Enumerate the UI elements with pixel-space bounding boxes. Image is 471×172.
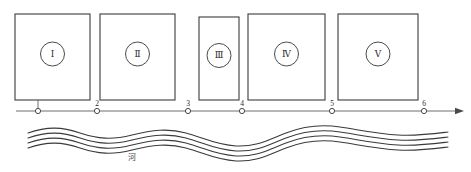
plot-2[interactable]: Ⅱ bbox=[100, 14, 175, 100]
tick-6-node[interactable] bbox=[421, 108, 426, 113]
tick-5-label: 5 bbox=[330, 99, 334, 108]
plot-5[interactable]: Ⅴ bbox=[338, 14, 418, 100]
diagram-canvas: ⅠⅡⅢⅣⅤ23456河 bbox=[0, 0, 471, 172]
plot-marker-label-1: Ⅰ bbox=[51, 49, 55, 59]
tick-4[interactable]: 4 bbox=[239, 99, 244, 114]
plot-marker-label-4: Ⅳ bbox=[282, 49, 292, 59]
tick-2-label: 2 bbox=[95, 99, 99, 108]
plot-marker-label-3: Ⅲ bbox=[215, 50, 224, 60]
river-group: 河 bbox=[28, 126, 448, 162]
river-label: 河 bbox=[128, 152, 136, 162]
tick-6[interactable]: 6 bbox=[421, 99, 426, 114]
tick-2-node[interactable] bbox=[94, 108, 99, 113]
tick-6-label: 6 bbox=[422, 99, 426, 108]
plot-1[interactable]: Ⅰ bbox=[15, 14, 90, 100]
plot-marker-label-2: Ⅱ bbox=[134, 49, 140, 59]
plot-3[interactable]: Ⅲ bbox=[199, 17, 239, 100]
tick-3-node[interactable] bbox=[185, 108, 190, 113]
axis-arrowhead-icon bbox=[455, 108, 464, 114]
tick-4-label: 4 bbox=[240, 99, 244, 108]
river-line-1 bbox=[28, 126, 448, 146]
tick-1[interactable] bbox=[35, 100, 40, 114]
tick-3-label: 3 bbox=[186, 99, 190, 108]
tick-3[interactable]: 3 bbox=[185, 99, 190, 114]
plot-4[interactable]: Ⅳ bbox=[248, 14, 325, 100]
reference-axis: 23456 bbox=[16, 99, 464, 114]
tick-1-node[interactable] bbox=[35, 108, 40, 113]
plot-group: ⅠⅡⅢⅣⅤ bbox=[15, 14, 418, 100]
tick-4-node[interactable] bbox=[239, 108, 244, 113]
tick-5-node[interactable] bbox=[329, 108, 334, 113]
tick-2[interactable]: 2 bbox=[94, 99, 99, 114]
plot-marker-label-5: Ⅴ bbox=[374, 49, 382, 59]
tick-5[interactable]: 5 bbox=[329, 99, 334, 114]
plot-layout-diagram: ⅠⅡⅢⅣⅤ23456河 bbox=[0, 0, 471, 172]
